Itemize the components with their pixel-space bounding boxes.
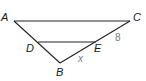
label-a: A	[0, 11, 8, 23]
label-b: B	[56, 66, 63, 78]
label-d: D	[26, 42, 34, 54]
label-e: E	[94, 42, 102, 54]
label-c: C	[133, 11, 141, 23]
triangle-diagram: A C D E B 8 x	[0, 0, 146, 81]
measure-ce: 8	[115, 32, 121, 43]
measure-eb: x	[77, 53, 84, 64]
